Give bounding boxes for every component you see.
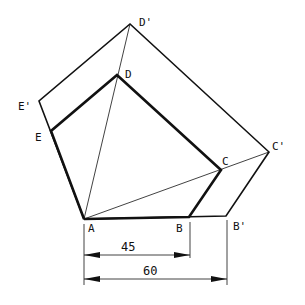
label-c: C bbox=[222, 155, 229, 168]
arrowhead-right-icon bbox=[211, 276, 227, 282]
label-d-prime: D' bbox=[139, 16, 152, 29]
label-b-prime: B' bbox=[233, 220, 246, 233]
arrowhead-right-icon bbox=[174, 252, 190, 258]
label-c-prime: C' bbox=[272, 140, 285, 153]
diagonal-a-d-prime bbox=[84, 24, 130, 219]
pentagon-enlargement-diagram: A B B' C C' D D' E E' 45 60 bbox=[0, 0, 305, 305]
dimension-value-45: 45 bbox=[121, 240, 135, 254]
label-a: A bbox=[88, 222, 95, 235]
diagonal-a-c-prime bbox=[84, 152, 269, 219]
dimension-value-60: 60 bbox=[143, 264, 157, 278]
label-b: B bbox=[176, 222, 183, 235]
inner-pentagon bbox=[51, 75, 221, 219]
arrowhead-left-icon bbox=[84, 252, 100, 258]
label-e: E bbox=[35, 131, 42, 144]
label-e-prime: E' bbox=[18, 100, 31, 113]
label-d: D bbox=[125, 68, 132, 81]
arrowhead-left-icon bbox=[84, 276, 100, 282]
